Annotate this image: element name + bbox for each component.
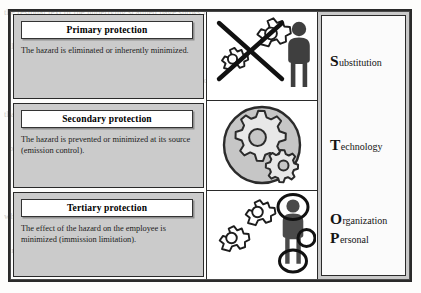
primary-protection-title: Primary protection [21,21,193,39]
acronym-rest-substitution: ubstitution [339,57,382,68]
row-secondary-description: Secondary protection The hazard is preve… [13,103,204,188]
secondary-protection-title: Secondary protection [21,110,193,128]
acronym-word-organization: Organization [330,213,405,227]
acronym-word-substitution: Substitution [330,55,405,69]
acronym-capital-s: S [330,52,339,69]
row-primary-description: Primary protection The hazard is elimina… [13,14,204,99]
secondary-protection-description: The hazard is prevented or minimized at … [20,134,197,157]
row-tertiary-pictogram [207,191,317,279]
figure-inner-frame: Primary protection The hazard is elimina… [10,11,410,280]
stop-acronym-panel: Substitution Technology Organization [321,15,406,276]
acronym-rest-organization: rganization [342,215,387,226]
acronym-cell-technology: Technology [322,104,405,188]
gears-enclosed-in-circle-icon [216,102,308,188]
tertiary-protection-title: Tertiary protection [21,199,193,217]
figure-outer-frame: Primary protection The hazard is elimina… [8,9,412,282]
stop-acronym-column: Substitution Technology Organization [318,12,409,279]
tertiary-protection-description: The effect of the hazard on the employee… [20,223,197,246]
row-secondary-pictogram [207,101,317,190]
acronym-rest-personal: ersonal [340,234,369,245]
boots-circle [280,250,307,272]
acronym-capital-o: O [330,210,342,227]
gears-crossed-out-with-person-icon [208,14,316,98]
row-primary-pictogram [207,12,317,101]
description-column: Primary protection The hazard is elimina… [11,12,206,279]
acronym-cell-substitution: Substitution [322,20,405,104]
row-tertiary-description: Tertiary protection The effect of the ha… [13,192,204,277]
gears-with-person-wearing-ppe-icon [208,191,316,279]
acronym-word-technology: Technology [330,139,405,153]
acronym-capital-t: T [330,136,341,153]
figure-page: the residual text of the underlying scan… [0,0,421,293]
primary-protection-description: The hazard is eliminated or inherently m… [20,45,197,56]
acronym-capital-p: P [330,229,340,246]
acronym-cell-organization-personal: Organization Personal [322,187,405,271]
pictogram-column [206,12,318,279]
acronym-word-personal: Personal [330,232,405,246]
acronym-rest-technology: echnology [341,141,383,152]
